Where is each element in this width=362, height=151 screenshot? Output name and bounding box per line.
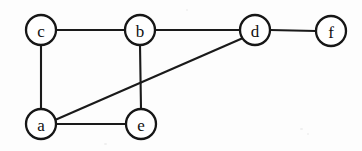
graph-svg: c-bb-dd-fc-ab-ea-ea-d cbdfae (0, 0, 362, 151)
edge-a-d[interactable]: a-d (55, 38, 243, 120)
node-label-a: a (37, 116, 45, 135)
edge-b-e[interactable]: b-e (140, 45, 141, 109)
node-d[interactable]: d (240, 15, 270, 45)
node-a[interactable]: a (26, 109, 56, 139)
nodes-layer: cbdfae (26, 15, 346, 139)
node-label-b: b (136, 22, 145, 41)
edges-layer: c-bb-dd-fc-ab-ea-ea-d (41, 30, 316, 124)
node-f[interactable]: f (316, 16, 346, 46)
node-label-e: e (137, 116, 145, 135)
edge-d-f[interactable]: d-f (270, 30, 316, 31)
node-e[interactable]: e (126, 109, 156, 139)
graph-diagram-canvas: c-bb-dd-fc-ab-ea-ea-d cbdfae (0, 0, 362, 151)
node-label-c: c (37, 22, 45, 41)
node-c[interactable]: c (26, 15, 56, 45)
node-label-f: f (328, 23, 334, 42)
node-label-d: d (251, 22, 260, 41)
node-b[interactable]: b (125, 15, 155, 45)
